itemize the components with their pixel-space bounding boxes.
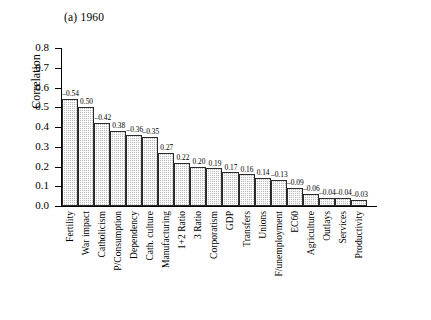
x-tick-label: 1+2 Ratio [178, 211, 188, 249]
y-tick-label-wrap: 0.4 [0, 127, 55, 128]
bar [319, 198, 335, 206]
bar-cell: –0.09 [287, 48, 303, 206]
y-tick-label: 0.2 [1, 161, 49, 172]
bar-cell: 0.27 [158, 48, 174, 206]
x-label-cell: Dependency [126, 207, 142, 319]
bar-value-label: –0.09 [287, 179, 304, 186]
x-tick-label: F/unemployment [274, 211, 284, 277]
y-tick-mark [55, 68, 61, 69]
y-tick-label: 0.4 [1, 121, 49, 132]
y-tick-label-wrap: 0.6 [0, 88, 55, 89]
bar-cell: 0.20 [190, 48, 206, 206]
bar [351, 200, 367, 206]
bar-value-label: 0.27 [160, 144, 173, 151]
x-label-cell: Catholicism [94, 207, 110, 319]
bar [78, 107, 94, 206]
bar-cell: –0.42 [94, 48, 110, 206]
bar [303, 194, 319, 206]
bar-value-label: 0.22 [176, 154, 189, 161]
x-label-cell: Fertility [62, 207, 78, 319]
bar [158, 153, 174, 206]
x-label-cell: 1+2 Ratio [174, 207, 190, 319]
bar-cell: –0.35 [142, 48, 158, 206]
bar-series: –0.540.50–0.420.38–0.36–0.350.270.220.20… [62, 48, 367, 206]
bar [126, 135, 142, 206]
bar-cell: –0.13 [271, 48, 287, 206]
bar-cell: 0.16 [239, 48, 255, 206]
figure-container: (a) 1960 Correlation 0.00.10.20.30.40.50… [0, 0, 431, 320]
y-tick-label-wrap: 0.2 [0, 167, 55, 168]
bar-value-label: 0.38 [112, 122, 125, 129]
bar [255, 178, 271, 206]
y-tick-label: 0.8 [1, 42, 49, 53]
bar-cell: 0.50 [78, 48, 94, 206]
x-label-cell: 3 Ratio [190, 207, 206, 319]
bar-value-label: 0.50 [80, 98, 93, 105]
bar-cell: –0.06 [303, 48, 319, 206]
bar-cell: 0.17 [222, 48, 238, 206]
bar-cell: 0.14 [255, 48, 271, 206]
x-tick-label: Catholicism [97, 211, 107, 257]
bar-value-label: –0.35 [143, 128, 160, 135]
x-tick-label: War impact [81, 211, 91, 255]
bar [287, 188, 303, 206]
y-tick-mark [55, 167, 61, 168]
x-tick-label: Productivity [354, 211, 364, 258]
x-label-cell: F/unemployment [271, 207, 287, 319]
bar-value-label: 0.16 [241, 166, 254, 173]
bar [142, 137, 158, 206]
y-tick-mark [55, 206, 61, 207]
bar-value-label: 0.19 [208, 160, 221, 167]
y-tick-label-wrap: 0.5 [0, 107, 55, 108]
x-tick-label: Manufacturing [162, 211, 172, 268]
x-label-cell: GDP [222, 207, 238, 319]
x-label-cell: Corporatism [206, 207, 222, 319]
bar [110, 131, 126, 206]
x-tick-label: Agriculture [306, 211, 316, 255]
x-axis-labels: FertilityWar impactCatholicismP/Consumpt… [62, 207, 367, 319]
x-tick-label: EC60 [290, 211, 300, 233]
bar [222, 172, 238, 206]
x-label-cell: Services [335, 207, 351, 319]
y-tick-mark [55, 127, 61, 128]
bar-value-label: –0.13 [271, 171, 288, 178]
bar-value-label: –0.04 [335, 189, 352, 196]
x-tick-label: Services [338, 211, 348, 244]
bar [94, 123, 110, 206]
bar [335, 198, 351, 206]
bar-value-label: 0.20 [192, 158, 205, 165]
x-label-cell: War impact [78, 207, 94, 319]
y-tick-label-wrap: 0.7 [0, 68, 55, 69]
bar-value-label: –0.06 [303, 185, 320, 192]
bar-value-label: –0.03 [351, 191, 368, 198]
bar-value-label: –0.04 [319, 189, 336, 196]
y-tick-label-wrap: 0.3 [0, 147, 55, 148]
bar-cell: –0.36 [126, 48, 142, 206]
y-tick-label-wrap: 0.0 [0, 206, 55, 207]
x-tick-label: Transfers [242, 211, 252, 247]
x-label-cell: Outlays [319, 207, 335, 319]
x-tick-label: Unions [258, 211, 268, 239]
x-tick-label: P/Consumption [113, 211, 123, 271]
y-tick-label: 0.3 [1, 141, 49, 152]
y-tick-mark [55, 107, 61, 108]
bar [174, 163, 190, 206]
x-label-cell: Agriculture [303, 207, 319, 319]
bar [239, 174, 255, 206]
y-tick-mark [55, 88, 61, 89]
x-tick-label: Fertility [65, 211, 75, 242]
x-tick-label: Cath. culture [145, 211, 155, 261]
bar-cell: –0.04 [335, 48, 351, 206]
y-tick-label-wrap: 0.8 [0, 48, 55, 49]
x-tick-label: GDP [226, 211, 236, 230]
x-label-cell: Manufacturing [158, 207, 174, 319]
y-tick-label: 0.1 [1, 180, 49, 191]
bar-cell: 0.19 [206, 48, 222, 206]
bar [206, 168, 222, 206]
y-tick-label: 0.6 [1, 82, 49, 93]
bar-cell: 0.38 [110, 48, 126, 206]
x-tick-label: 3 Ratio [194, 211, 204, 239]
y-tick-label: 0.0 [1, 200, 49, 211]
bar [271, 180, 287, 206]
bar-cell: –0.04 [319, 48, 335, 206]
